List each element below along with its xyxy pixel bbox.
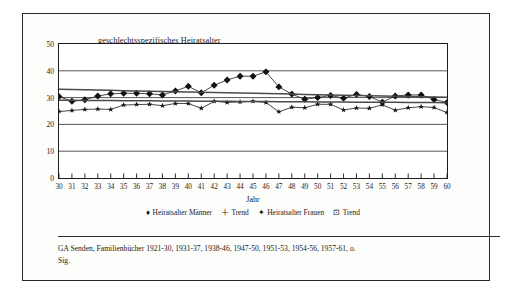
x-axis-tick-label: 43 [224,183,231,191]
x-axis-tick-label: 44 [236,183,243,191]
x-axis-tick-label: 59 [430,183,437,191]
y-axis-tick-label: 50 [32,40,54,49]
y-axis-tick-label: 0 [32,174,54,183]
legend-item: ♦Heiratsalter Männer [146,208,212,217]
x-axis-tick-label: 32 [81,183,88,191]
x-axis-tick-label: 30 [55,183,62,191]
x-axis-tick-label: 39 [172,183,179,191]
legend-item: ✦Heiratsalter Frauen [258,208,324,217]
x-axis-tick-label: 57 [405,183,412,191]
caption-divider [58,236,500,237]
x-axis-tick-label: 42 [211,183,218,191]
x-axis-tick-label: 55 [379,183,386,191]
x-axis-tick-label: 33 [94,183,101,191]
plot-area [58,43,448,179]
y-axis-tick-label: 20 [32,120,54,129]
x-axis-tick-label: 37 [146,183,153,191]
y-axis-tick-label: 30 [32,93,54,102]
y-axis-tick-label: 40 [32,66,54,75]
x-axis-tick-label: 31 [68,183,75,191]
x-axis-tick-label: 54 [366,183,373,191]
legend-label: Heiratsalter Männer [153,208,212,217]
x-axis-tick-label: 46 [262,183,269,191]
x-axis-tick-label: 40 [185,183,192,191]
x-axis-tick-label: 52 [340,183,347,191]
x-axis-tick-label: 50 [314,183,321,191]
star-marker-icon: ✦ [258,209,265,217]
x-axis-tick-label: 35 [120,183,127,191]
x-axis-tick-label: 60 [443,183,450,191]
figure-caption: GA Senden, Familienbücher 1921-30, 1931-… [58,243,358,266]
y-axis-tick-label: 10 [32,147,54,156]
legend-item: ⊡Trend [333,208,360,217]
x-axis-tick-label: 34 [107,183,114,191]
square-marker-icon: ⊡ [333,209,340,217]
x-axis-tick-label: 51 [327,183,334,191]
x-axis-tick-label: 36 [133,183,140,191]
x-axis-tick-label: 53 [353,183,360,191]
legend-label: Heiratsalter Frauen [267,208,324,217]
chart-legend: ♦Heiratsalter Männer＋Trend✦Heiratsalter … [58,208,448,217]
chart-svg [59,44,447,178]
x-axis-tick-label: 48 [288,183,295,191]
plus-marker-icon: ＋ [221,209,229,217]
x-axis-tick-label: 45 [249,183,256,191]
legend-label: Trend [343,208,360,217]
plot-wrapper: 01020304050 3031323334353637383940414243… [58,43,448,179]
x-axis-tick-label: 49 [301,183,308,191]
legend-item: ＋Trend [221,208,249,217]
x-axis-tick-label: 56 [392,183,399,191]
x-axis-title: Jahr [58,195,448,204]
figure-frame: geschlechtsspezifisches Heiratsalter 010… [22,13,490,281]
x-axis-tick-label: 38 [159,183,166,191]
x-axis-tick-label: 58 [418,183,425,191]
x-axis-tick-label: 41 [198,183,205,191]
x-axis-tick-label: 47 [275,183,282,191]
diamond-marker-icon: ♦ [146,209,150,217]
legend-label: Trend [231,208,248,217]
